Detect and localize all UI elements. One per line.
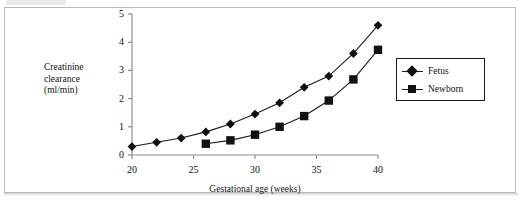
diamond-marker-icon [275,98,284,107]
series-line-newborn [206,50,378,144]
y-axis-tick-label: 4 [110,36,124,47]
series-layer [128,21,383,151]
y-axis-title-line: Creatinine [44,62,118,74]
y-axis-tick-label: 5 [110,8,124,19]
series-line-fetus [132,25,378,146]
y-axis-title-line: (ml/min) [44,85,118,97]
y-axis-title: Creatinineclearance(ml/min) [44,62,118,97]
diamond-marker-icon [152,138,161,147]
square-marker-icon [374,46,382,54]
y-axis-tick-label: 1 [110,121,124,132]
x-axis-tick-label: 25 [182,164,206,175]
diamond-marker-icon [402,65,423,77]
square-marker-icon [349,75,357,83]
diamond-marker-icon [300,83,309,92]
legend-item-fetus: Fetus [402,64,449,78]
square-marker-icon [251,131,259,139]
plot-area-svg [0,0,523,210]
square-marker-icon [226,136,234,144]
x-axis-title: Gestational age (weeks) [132,184,378,194]
square-marker-icon [402,83,423,95]
diamond-marker-icon [128,142,137,151]
y-axis-title-line: clearance [44,74,118,86]
x-axis-tick-label: 40 [366,164,390,175]
legend-label: Fetus [428,66,449,76]
chart-legend: Fetus Newborn [396,58,485,101]
line-chart: 012345 2025303540 Creatinineclearance(ml… [0,0,523,210]
x-axis-tick-label: 30 [243,164,267,175]
diamond-marker-icon [201,127,210,136]
diamond-marker-icon [177,134,186,143]
y-axis-tick-label: 0 [110,149,124,160]
diamond-marker-icon [251,110,260,119]
square-marker-icon [275,123,283,131]
diamond-marker-icon [226,120,235,129]
legend-item-newborn: Newborn [402,82,463,96]
square-marker-icon [202,140,210,148]
x-axis-tick-label: 35 [305,164,329,175]
legend-label: Newborn [428,84,463,94]
square-marker-icon [300,112,308,120]
x-axis-tick-label: 20 [120,164,144,175]
figure-page: 012345 2025303540 Creatinineclearance(ml… [0,0,523,210]
square-marker-icon [325,96,333,104]
